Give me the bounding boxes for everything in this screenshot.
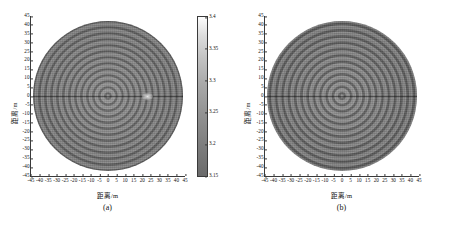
panel-a-colorbar-tick: 3.15 <box>207 173 218 178</box>
panel-b-xtick: 35 <box>399 176 404 183</box>
panel-b-ytick: -35 <box>257 156 265 161</box>
panel-b-xtick: 25 <box>382 176 387 183</box>
panel-a-xtick: -25 <box>62 176 69 183</box>
panel-b-ytick: 45 <box>258 13 265 18</box>
panel-a-xtick: 15 <box>131 176 136 183</box>
panel-b-xtick: -25 <box>296 176 303 183</box>
panel-b-ytick: -20 <box>257 129 265 134</box>
panel-a-ytick: 10 <box>24 76 31 81</box>
panel-b-xtick: -30 <box>287 176 294 183</box>
panel-b-xtick: 5 <box>349 176 352 183</box>
panel-a-xtick: -20 <box>70 176 77 183</box>
panel-a-ytick: -35 <box>23 156 31 161</box>
panel-b-ytick: 35 <box>258 31 265 36</box>
panel-b-ytick: 15 <box>258 67 265 72</box>
panel-a-xtick: -30 <box>53 176 60 183</box>
figure-container: 距离/m 45 40 35 30 25 20 15 10 5 0 -5 -10 … <box>0 0 467 225</box>
panel-a-ytick: 35 <box>24 31 31 36</box>
panel-b: 距离/m 45 40 35 30 25 20 15 10 5 0 -5 -10 … <box>233 0 467 225</box>
panel-a-axes: 45 40 35 30 25 20 15 10 5 0 -5 -10 -15 -… <box>30 16 185 177</box>
panel-a-xtick: 40 <box>174 176 179 183</box>
panel-a-xtick: 35 <box>165 176 170 183</box>
panel-b-ytick: 5 <box>261 84 265 89</box>
panel-a-xtick: 0 <box>107 176 110 183</box>
panel-a-xtick: -45 <box>28 176 35 183</box>
panel-a-colorbar: 3.15 3.2 3.25 3.3 3.35 3.4 <box>197 16 208 177</box>
panel-b-ytick: 25 <box>258 49 265 54</box>
panel-a-colorbar-tick: 3.3 <box>207 78 215 83</box>
panel-a: 距离/m 45 40 35 30 25 20 15 10 5 0 -5 -10 … <box>0 0 233 225</box>
panel-b-ytick: 10 <box>258 76 265 81</box>
panel-b-xtick: 45 <box>416 176 421 183</box>
panel-a-ytick: -25 <box>23 138 31 143</box>
panel-a-ytick: -10 <box>23 111 31 116</box>
panel-a-xtick: -40 <box>36 176 43 183</box>
panel-a-ytick: -40 <box>23 164 31 169</box>
panel-a-ytick: 40 <box>24 22 31 27</box>
panel-a-ytick: -5 <box>25 102 31 107</box>
panel-b-ytick: -40 <box>257 164 265 169</box>
panel-a-xtick: 5 <box>115 176 118 183</box>
panel-b-xtick: -5 <box>331 176 335 183</box>
panel-b-xtick: -45 <box>262 176 269 183</box>
panel-b-ytick: 20 <box>258 58 265 63</box>
panel-b-plot-area <box>265 16 419 176</box>
panel-a-xtick: 20 <box>140 176 145 183</box>
panel-a-plot-area <box>31 16 185 176</box>
panel-b-xtick: 15 <box>365 176 370 183</box>
panel-a-colorbar-tick: 3.25 <box>207 110 218 115</box>
panel-a-ytick: 20 <box>24 58 31 63</box>
panel-b-ytick: 40 <box>258 22 265 27</box>
panel-a-ytick: -15 <box>23 120 31 125</box>
panel-a-ytick: 15 <box>24 67 31 72</box>
panel-a-ytick: 30 <box>24 40 31 45</box>
panel-a-xtick: 30 <box>157 176 162 183</box>
panel-a-xtick: -5 <box>97 176 101 183</box>
panel-a-xtick: -15 <box>79 176 86 183</box>
panel-a-center-seam <box>33 96 183 97</box>
panel-b-ylabel: 距离/m <box>242 102 252 124</box>
panel-a-ytick: 25 <box>24 49 31 54</box>
panel-b-xtick: 20 <box>374 176 379 183</box>
panel-b-xtick: 10 <box>357 176 362 183</box>
panel-a-caption: (a) <box>30 203 185 212</box>
panel-a-xtick: -10 <box>87 176 94 183</box>
panel-b-xtick: -20 <box>304 176 311 183</box>
panel-a-xtick: 25 <box>148 176 153 183</box>
panel-b-xtick: 0 <box>341 176 344 183</box>
panel-b-ytick: -5 <box>259 102 265 107</box>
panel-b-ytick: -10 <box>257 111 265 116</box>
panel-b-xlabel: 距离/m <box>264 190 419 200</box>
panel-b-ytick: -30 <box>257 147 265 152</box>
panel-a-ytick: 0 <box>27 93 31 98</box>
panel-a-ytick: -30 <box>23 147 31 152</box>
panel-b-ytick: -15 <box>257 120 265 125</box>
panel-a-ytick: 5 <box>27 84 31 89</box>
panel-b-ytick: -25 <box>257 138 265 143</box>
panel-a-ytick: -20 <box>23 129 31 134</box>
panel-a-ytick: 45 <box>24 13 31 18</box>
panel-b-xtick: 40 <box>408 176 413 183</box>
panel-a-colorbar-tick: 3.35 <box>207 46 218 51</box>
panel-a-ylabel: 距离/m <box>9 102 19 124</box>
panel-b-xtick: -15 <box>313 176 320 183</box>
panel-b-xtick: -40 <box>270 176 277 183</box>
panel-a-colorbar-gradient <box>198 17 207 176</box>
panel-a-xtick: 10 <box>123 176 128 183</box>
panel-b-ytick: 30 <box>258 40 265 45</box>
panel-b-xtick: -10 <box>321 176 328 183</box>
panel-a-colorbar-tick: 3.4 <box>207 14 215 19</box>
panel-b-caption: (b) <box>264 203 419 212</box>
panel-a-colorbar-tick: 3.2 <box>207 142 215 147</box>
panel-a-xlabel: 距离/m <box>30 190 185 200</box>
panel-b-center-seam <box>267 96 417 97</box>
panel-b-axes: 45 40 35 30 25 20 15 10 5 0 -5 -10 -15 -… <box>264 16 419 177</box>
panel-a-xtick: 45 <box>182 176 187 183</box>
panel-a-xtick: -35 <box>45 176 52 183</box>
panel-b-ytick: 0 <box>261 93 265 98</box>
panel-b-xtick: -35 <box>279 176 286 183</box>
panel-b-xtick: 30 <box>391 176 396 183</box>
